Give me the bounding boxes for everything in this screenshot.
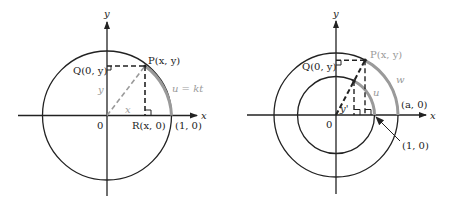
arc-u-label: u = kt — [172, 83, 204, 94]
point-p-dot — [363, 59, 367, 63]
y-axis-label: y — [103, 8, 110, 19]
arc-u — [145, 66, 172, 116]
point-p-label: P(x, y) — [370, 49, 402, 60]
right-angle-r — [145, 110, 151, 116]
right-figure: y x 0 P(x, y) Q(0, y) (a, 0) (1, 0) w u … — [247, 8, 436, 194]
y-axis-label: y — [332, 8, 339, 19]
point-q-label: Q(0, y) — [73, 65, 107, 76]
diagram-canvas: y x 0 P(x, y) Q(0, y) R(x, 0) (1, 0) u =… — [0, 0, 453, 209]
arc-w-label: w — [396, 74, 405, 85]
point-a-label: (a, 0) — [401, 99, 428, 110]
x-axis-label: x — [201, 110, 207, 121]
point-p-label: P(x, y) — [148, 55, 180, 66]
point-r-label: R(x, 0) — [132, 120, 166, 131]
point-p-dot — [143, 64, 146, 67]
point-q-label: Q(0, y) — [302, 61, 336, 72]
inner-point-dot — [352, 79, 356, 83]
origin-label: 0 — [326, 119, 332, 130]
leg-y-prime-label: y' — [339, 103, 348, 114]
left-figure: y x 0 P(x, y) Q(0, y) R(x, 0) (1, 0) u =… — [18, 8, 207, 196]
leg-y-label: y — [97, 84, 104, 95]
origin-label: 0 — [97, 120, 103, 131]
arc-u-label: u — [373, 87, 379, 98]
point-unit-label: (1, 0) — [175, 120, 202, 131]
point-unit-label: (1, 0) — [402, 140, 429, 151]
x-axis-label: x — [430, 110, 436, 121]
right-angle-inner — [354, 110, 360, 116]
right-angle-outer — [365, 110, 371, 116]
arc-w — [365, 60, 398, 115]
leg-x-label: x — [125, 104, 131, 115]
